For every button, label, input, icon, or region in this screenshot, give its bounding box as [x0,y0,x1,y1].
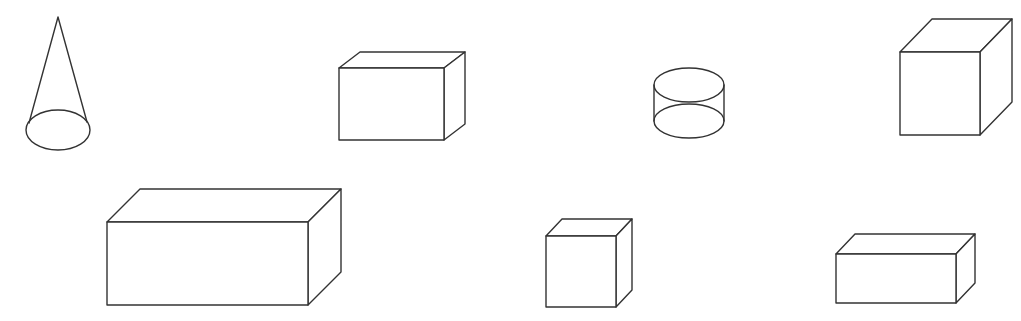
cylinder-top [654,68,724,102]
front-face [339,68,444,140]
box-flat-bottom-right-shape [836,234,975,303]
side-face [444,52,465,140]
cylinder-shape [654,68,724,138]
top-face [836,234,975,254]
front-face [107,222,308,305]
cube-top-right-shape [900,19,1012,135]
cone-sides [29,17,87,123]
figure-svg [0,0,1021,321]
cone-base [26,110,90,150]
cone-shape [26,17,90,150]
cylinder-bottom [654,104,724,138]
front-face [546,236,616,307]
top-face [107,189,341,222]
front-face [836,254,956,303]
box-top-middle-shape [339,52,465,140]
cube-small-bottom-middle-shape [546,219,632,307]
geometric-solids-figure [0,0,1021,321]
front-face [900,52,980,135]
box-large-bottom-left-shape [107,189,341,305]
